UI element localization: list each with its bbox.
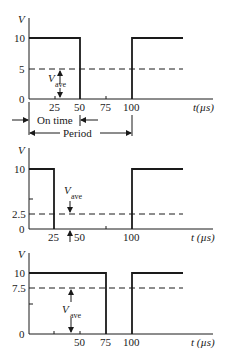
pwm-diagram: V 10 5 0 V ave 25 50 75 100 t(µs) On tim… xyxy=(0,0,227,362)
y-tick-5: 5 xyxy=(19,63,25,75)
x-tick-100: 100 xyxy=(123,336,140,348)
y-label: V xyxy=(18,144,26,156)
waveform-next-pulse xyxy=(132,169,183,229)
chart-50-percent: V 10 5 0 V ave 25 50 75 100 t(µs) On tim… xyxy=(12,13,214,139)
x-tick-50: 50 xyxy=(74,231,86,243)
x-tick-50: 50 xyxy=(74,336,86,348)
ontime-label: On time xyxy=(37,114,73,126)
x-tick-75: 75 xyxy=(100,101,112,113)
x-tick-100: 100 xyxy=(123,231,140,243)
x-label: t (µs) xyxy=(191,336,215,349)
x-label: t(µs) xyxy=(193,101,214,114)
y-tick-10: 10 xyxy=(14,32,26,44)
y-tick-0: 0 xyxy=(19,328,25,340)
x-tick-100: 100 xyxy=(123,101,140,113)
waveform-next-pulse xyxy=(132,273,183,334)
x-tick-50: 50 xyxy=(74,101,86,113)
y-tick-7.5: 7.5 xyxy=(12,282,26,294)
chart-25-percent: V 10 2.5 0 V ave 25 50 100 t (µs) xyxy=(12,144,215,244)
x-tick-25: 25 xyxy=(49,101,61,113)
vave-label: V xyxy=(62,303,70,315)
period-label: Period xyxy=(63,127,92,139)
x-label: t (µs) xyxy=(191,231,215,244)
y-label: V xyxy=(18,13,26,25)
chart-75-percent: V 10 7.5 0 V ave 50 75 100 t (µs) xyxy=(12,248,215,349)
y-tick-2.5: 2.5 xyxy=(12,208,26,220)
x-tick-75: 75 xyxy=(100,336,112,348)
y-tick-10: 10 xyxy=(14,267,26,279)
y-tick-10: 10 xyxy=(14,163,26,175)
y-label: V xyxy=(18,248,26,260)
x-tick-25: 25 xyxy=(48,231,60,243)
vave-sub: ave xyxy=(55,80,67,89)
vave-sub: ave xyxy=(70,311,82,320)
vave-sub: ave xyxy=(71,192,83,201)
y-tick-0: 0 xyxy=(19,223,25,235)
y-tick-0: 0 xyxy=(19,93,25,105)
